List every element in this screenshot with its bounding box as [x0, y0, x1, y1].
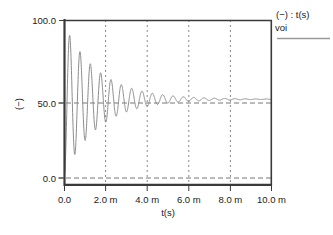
x-tick-label-0: 0.0 — [58, 194, 71, 205]
legend-header: (−) : t(s) — [276, 9, 310, 20]
y-tick-label-0: 0.0 — [43, 173, 56, 184]
y-tick-label-50: 50.0 — [38, 98, 57, 109]
x-tick-label-8m: 8.0 m — [219, 194, 243, 205]
plot-container: 100.0 50.0 0.0 (−) 0.0 2.0 m 4.0 m 6.0 m… — [0, 0, 333, 235]
y-tick-marks — [59, 21, 64, 179]
x-tick-label-2m: 2.0 m — [94, 194, 118, 205]
legend: (−) : t(s) voi — [275, 9, 330, 39]
y-tick-label-100: 100.0 — [32, 15, 56, 26]
x-axis-title: t(s) — [161, 207, 175, 218]
x-tick-label-6m: 6.0 m — [177, 194, 201, 205]
legend-series-label: voi — [275, 22, 287, 33]
plot-svg: 100.0 50.0 0.0 (−) 0.0 2.0 m 4.0 m 6.0 m… — [0, 0, 333, 235]
y-axis-title: (−) — [13, 98, 24, 110]
x-tick-label-4m: 4.0 m — [135, 194, 159, 205]
x-tick-label-10m: 10.0 m — [257, 194, 286, 205]
plot-area-background — [64, 20, 272, 185]
